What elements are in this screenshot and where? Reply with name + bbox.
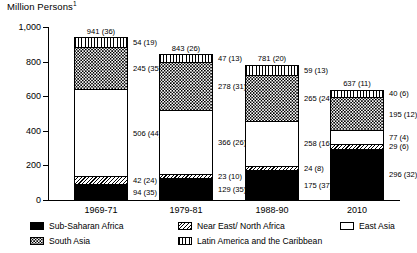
bar-segment-latin-america-and-the-caribbean[interactable] <box>160 54 212 62</box>
plot-area: 941 (36)54 (19)245 (35)506 (44)42 (24)94… <box>48 27 400 200</box>
bar-segment-east-asia[interactable] <box>75 89 127 177</box>
bar-1979-81[interactable]: 843 (26)47 (13)278 (31)366 (26)23 (10)12… <box>159 54 213 200</box>
bar-segment-latin-america-and-the-caribbean[interactable] <box>75 37 127 46</box>
y-axis-labels: 02004006008001,000 <box>0 0 41 253</box>
y-axis-tick-label: 200 <box>1 160 41 170</box>
y-axis-tick-label: 800 <box>1 57 41 67</box>
legend-label: South Asia <box>49 236 90 246</box>
bar-total-label: 843 (26) <box>172 44 200 53</box>
bar-total-label: 781 (20) <box>258 54 286 63</box>
bar-segment-value-label: 42 (24) <box>133 176 157 185</box>
bar-segment-value-label: 129 (35) <box>218 184 246 193</box>
legend-label: Sub-Saharan Africa <box>49 221 124 231</box>
bar-segment-south-asia[interactable] <box>75 47 127 89</box>
legend-label: Latin America and the Caribbean <box>197 236 322 246</box>
bar-1988-90[interactable]: 781 (20)59 (13)265 (24)258 (16)24 (8)175… <box>245 65 299 200</box>
bar-segment-value-label: 59 (13) <box>304 65 328 74</box>
bar-segment-east-asia[interactable] <box>246 121 298 166</box>
bar-segment-value-label: 245 (35) <box>133 63 161 72</box>
bar-segment-value-label: 278 (31) <box>218 82 246 91</box>
bar-segment-value-label: 23 (10) <box>218 171 242 180</box>
bar-segment-sub-saharan-africa[interactable] <box>75 184 127 200</box>
bar-segment-value-label: 24 (8) <box>304 163 324 172</box>
x-axis-label-1969-71: 1969-71 <box>84 205 117 215</box>
legend-item-sub-saharan-africa[interactable]: Sub-Saharan Africa <box>30 219 124 233</box>
bar-segment-value-label: 77 (4) <box>389 133 409 142</box>
legend-swatch-sub-saharan-africa <box>30 222 44 230</box>
chart-title-footnote-marker: 1 <box>73 0 77 7</box>
bar-segment-south-asia[interactable] <box>160 62 212 110</box>
bar-total-label: 941 (36) <box>87 27 115 36</box>
bar-segment-latin-america-and-the-caribbean[interactable] <box>246 65 298 75</box>
bar-segment-value-label: 47 (13) <box>218 54 242 63</box>
chart-legend: Sub-Saharan AfricaNear East/ North Afric… <box>30 219 402 251</box>
x-axis-label-2010: 2010 <box>347 205 367 215</box>
bar-1969-71[interactable]: 941 (36)54 (19)245 (35)506 (44)42 (24)94… <box>74 37 128 200</box>
bar-segment-value-label: 506 (44) <box>133 128 161 137</box>
bar-segment-value-label: 258 (16) <box>304 139 332 148</box>
bar-segment-east-asia[interactable] <box>160 110 212 173</box>
bar-total-label: 637 (11) <box>343 79 371 88</box>
legend-swatch-near-east-north-africa <box>178 222 192 230</box>
bar-segment-sub-saharan-africa[interactable] <box>160 178 212 200</box>
legend-swatch-south-asia <box>30 237 44 245</box>
legend-item-latin-america-and-the-caribbean[interactable]: Latin America and the Caribbean <box>178 234 322 248</box>
bar-segment-south-asia[interactable] <box>246 75 298 121</box>
bar-segment-latin-america-and-the-caribbean[interactable] <box>331 90 383 97</box>
bar-segment-value-label: 265 (24) <box>304 94 332 103</box>
bar-segment-value-label: 195 (12) <box>389 109 417 118</box>
x-axis-label-1979-81: 1979-81 <box>169 205 202 215</box>
bar-segment-value-label: 40 (6) <box>389 89 409 98</box>
bar-segment-east-asia[interactable] <box>331 130 383 143</box>
bar-segment-sub-saharan-africa[interactable] <box>331 149 383 200</box>
y-axis-tick-label: 1,000 <box>1 22 41 32</box>
legend-row-2: South AsiaLatin America and the Caribbea… <box>30 234 402 248</box>
bar-segment-value-label: 54 (19) <box>133 37 157 46</box>
x-axis-label-1988-90: 1988-90 <box>255 205 288 215</box>
legend-row-1: Sub-Saharan AfricaNear East/ North Afric… <box>30 219 402 233</box>
legend-label: East Asia <box>359 221 395 231</box>
y-axis-tick-label: 600 <box>1 91 41 101</box>
bar-segment-value-label: 94 (35) <box>133 187 157 196</box>
legend-swatch-east-asia <box>340 222 354 230</box>
legend-item-east-asia[interactable]: East Asia <box>340 219 395 233</box>
y-axis-tick-label: 0 <box>1 195 41 205</box>
x-axis-line <box>48 200 400 201</box>
y-axis-tick-label: 400 <box>1 126 41 136</box>
bar-segment-south-asia[interactable] <box>331 97 383 131</box>
legend-item-near-east-north-africa[interactable]: Near East/ North Africa <box>178 219 285 233</box>
bar-2010[interactable]: 637 (11)40 (6)195 (12)77 (4)29 (6)296 (3… <box>330 90 384 200</box>
bar-segment-value-label: 296 (32) <box>389 170 417 179</box>
bar-segment-value-label: 366 (26) <box>218 138 246 147</box>
bar-segment-near-east-north-africa[interactable] <box>75 176 127 183</box>
bar-segment-value-label: 29 (6) <box>389 142 409 151</box>
legend-label: Near East/ North Africa <box>197 221 285 231</box>
legend-item-south-asia[interactable]: South Asia <box>30 234 90 248</box>
bar-segment-value-label: 175 (37) <box>304 180 332 189</box>
bar-segment-sub-saharan-africa[interactable] <box>246 170 298 200</box>
legend-swatch-latin-america-and-the-caribbean <box>178 237 192 245</box>
